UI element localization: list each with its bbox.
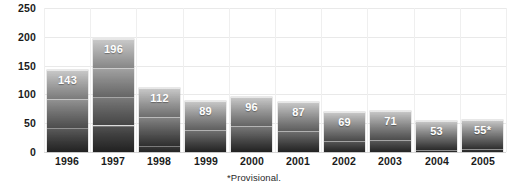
x-axis-tick-label: 2002: [321, 155, 367, 167]
bar-value-label: 53: [416, 125, 457, 137]
y-axis-tick-label: 250: [0, 3, 36, 13]
x-axis-tick-label: 2001: [275, 155, 321, 167]
bar-chart-figure: 250200150100500 14319611289968769715355*…: [0, 0, 508, 188]
footnote-provisional: *Provisional.: [0, 172, 508, 183]
x-axis-tick-label: 1997: [90, 155, 136, 167]
bar-value-label: 112: [139, 92, 180, 104]
bar-value-label: 89: [185, 105, 226, 117]
bars-layer: 14319611289968769715355*: [44, 8, 506, 152]
bar-1997[interactable]: 196: [93, 39, 134, 152]
bar-value-label: 143: [47, 74, 88, 86]
bar-value-label: 196: [93, 43, 134, 55]
x-axis: 1996199719981999200020012002200320042005: [44, 155, 506, 171]
bar-2002[interactable]: 69: [324, 112, 365, 152]
y-axis-tick-label: 100: [0, 89, 36, 99]
bar-value-label: 69: [324, 116, 365, 128]
x-axis-tick-label: 2004: [414, 155, 460, 167]
gridline-horizontal: [44, 152, 506, 153]
x-axis-tick-label: 1999: [183, 155, 229, 167]
bar-value-label: 71: [370, 115, 411, 127]
x-axis-tick-label: 1998: [136, 155, 182, 167]
bar-2001[interactable]: 87: [278, 102, 319, 152]
bar-2004[interactable]: 53: [416, 121, 457, 152]
y-axis-tick-label: 200: [0, 32, 36, 42]
x-axis-tick-label: 1996: [44, 155, 90, 167]
y-axis-tick-label: 50: [0, 118, 36, 128]
y-axis-tick-label: 150: [0, 61, 36, 71]
plot-area: 14319611289968769715355*: [44, 8, 506, 152]
x-axis-tick-label: 2003: [367, 155, 413, 167]
bar-2003[interactable]: 71: [370, 111, 411, 152]
bar-1998[interactable]: 112: [139, 88, 180, 153]
bar-value-label: 87: [278, 106, 319, 118]
bar-2005[interactable]: 55*: [462, 120, 503, 152]
bar-value-label: 55*: [462, 124, 503, 136]
y-axis-tick-label: 0: [0, 147, 36, 157]
x-axis-tick-label: 2005: [460, 155, 506, 167]
bar-2000[interactable]: 96: [231, 97, 272, 152]
bar-1999[interactable]: 89: [185, 101, 226, 152]
bar-1996[interactable]: 143: [47, 70, 88, 152]
gridline-vertical: [506, 8, 507, 152]
bar-value-label: 96: [231, 101, 272, 113]
x-axis-tick-label: 2000: [229, 155, 275, 167]
y-axis: 250200150100500: [0, 0, 40, 152]
